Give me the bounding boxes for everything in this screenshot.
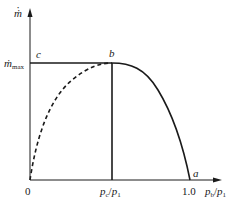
y-axis-arrow-icon bbox=[28, 8, 33, 17]
y-max-label-base: ṁ bbox=[4, 57, 12, 69]
critical-ratio-label: pc/p1 bbox=[100, 186, 121, 199]
x-end-tick-label: 1.0 bbox=[182, 186, 196, 197]
critical-den-sub: 1 bbox=[117, 191, 121, 199]
y-axis-label-symbol: ṁ bbox=[14, 8, 22, 19]
point-a-label: a bbox=[193, 168, 199, 179]
origin-label: 0 bbox=[25, 186, 31, 197]
y-axis-label: ṁ bbox=[14, 8, 22, 19]
solid-curve-b-to-a bbox=[112, 63, 190, 180]
x-axis-den-sub: 1 bbox=[223, 191, 227, 199]
y-max-label: ṁmax bbox=[4, 58, 24, 71]
point-c-label: c bbox=[36, 49, 41, 60]
y-max-label-sub: max bbox=[12, 63, 24, 71]
x-axis-arrow-icon bbox=[213, 178, 222, 183]
dashed-curve-0-to-b bbox=[30, 63, 112, 180]
point-b-label: b bbox=[109, 48, 115, 59]
diagram-canvas bbox=[0, 0, 237, 204]
x-axis-label: pb/p1 bbox=[205, 186, 226, 199]
